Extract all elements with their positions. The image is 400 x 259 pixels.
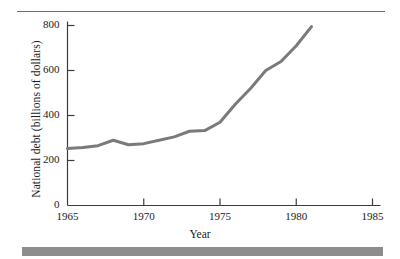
x-axis-tick-label: 1975 (200, 210, 240, 222)
x-axis-tick-label: 1970 (124, 210, 164, 222)
y-axis-tick-label: 600 (20, 63, 60, 75)
x-axis-tick-label: 1965 (48, 210, 88, 222)
y-axis-tick-label: 400 (20, 108, 60, 120)
bottom-accent-bar (22, 247, 383, 256)
y-axis-tick-label: 200 (20, 153, 60, 165)
chart-svg (0, 0, 400, 240)
figure-container: National debt (billions of dollars) Year… (0, 0, 400, 259)
chart-plot-area (0, 0, 400, 240)
x-axis-tick-label: 1985 (353, 210, 393, 222)
data-series-line (68, 27, 312, 149)
x-axis-label: Year (0, 228, 400, 240)
y-axis-tick-label: 800 (20, 18, 60, 30)
y-axis-tick-label: 0 (20, 198, 60, 210)
x-axis-tick-label: 1980 (276, 210, 316, 222)
